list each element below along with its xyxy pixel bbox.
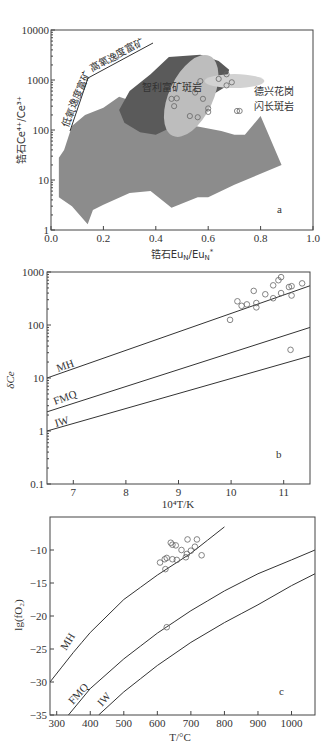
svg-text:600: 600 [149,717,166,729]
data-point [185,537,191,543]
svg-text:0.4: 0.4 [149,232,163,244]
panel-b-ylabel: δCe [4,371,16,388]
data-point [244,302,250,308]
svg-text:1.0: 1.0 [306,232,320,244]
high-fo2-label: 高氧逸度富矿 [87,35,146,74]
dexing-label-1: 德兴花岗 [254,85,294,97]
panel-a-chart: 0.00.20.40.60.81.0110100100010000 低氧逸度富矿… [15,24,320,262]
data-point [262,291,268,297]
svg-text:−25: −25 [30,643,48,655]
fmq-label-b: FMQ [52,387,79,406]
svg-text:−15: −15 [30,577,48,589]
svg-text:9: 9 [176,486,182,498]
svg-text:0.6: 0.6 [201,232,215,244]
panel-b-frame [47,272,310,484]
data-point [299,281,305,287]
svg-text:100: 100 [28,319,45,331]
data-point [199,552,205,558]
panel-a-ylabel: 锆石Ce⁴⁺/Ce³⁺ [15,96,27,164]
panel-c-chart: 3004005006007008009001000−10−15−20−25−30… [12,517,315,743]
svg-text:0.1: 0.1 [30,478,44,490]
data-point [270,283,276,289]
iw-label-b: IW [53,413,70,429]
svg-text:8: 8 [123,486,129,498]
panel-c-ylabel: lg(fO₂) [12,599,25,631]
svg-text:7: 7 [71,486,77,498]
chile-label: 智利富矿斑岩 [142,81,202,93]
svg-text:0.2: 0.2 [97,232,111,244]
svg-text:1: 1 [39,425,45,437]
svg-text:1000: 1000 [27,74,50,86]
mh-label-c: MH [58,631,78,652]
svg-text:−10: −10 [30,544,48,556]
svg-text:500: 500 [116,717,133,729]
iw-label-c: IW [95,689,114,708]
svg-text:−30: −30 [30,676,48,688]
svg-text:400: 400 [82,717,99,729]
svg-text:900: 900 [250,717,267,729]
svg-text:1000: 1000 [22,266,45,278]
svg-text:300: 300 [48,717,65,729]
svg-text:1: 1 [44,224,50,236]
svg-text:700: 700 [183,717,200,729]
svg-text:10: 10 [226,486,238,498]
data-point [179,547,185,553]
svg-text:100: 100 [33,124,50,136]
mh-label-b: MH [55,357,76,374]
svg-text:1000: 1000 [281,717,304,729]
data-point [288,347,294,353]
data-point [192,544,198,550]
panel-b-points [227,274,305,352]
data-point [194,537,200,543]
buffer-line-iw [47,356,310,431]
svg-text:800: 800 [216,717,233,729]
panel-a-label: a [277,203,282,215]
panel-b-buffer-lines [47,286,310,431]
panel-c-buffer-lines [50,527,315,715]
svg-text:−35: −35 [30,709,48,721]
svg-text:10: 10 [38,174,50,186]
panel-b-chart: 78910110.11101001000 MH FMQ IW b δCe 10⁴… [4,266,310,510]
panel-c-label: c [279,685,284,697]
data-point [227,317,233,323]
panel-a-xlabel: 锆石EuN/EuN* [151,248,214,262]
figure: 0.00.20.40.60.81.0110100100010000 低氧逸度富矿… [0,0,332,750]
svg-text:10000: 10000 [22,24,50,36]
data-point [278,290,284,296]
svg-text:11: 11 [278,486,289,498]
panel-c-xlabel: T/°C [169,731,191,743]
buffer-line-fmq [47,327,310,411]
panel-c-points [157,537,204,630]
data-point [251,288,257,294]
data-point [235,299,241,305]
dexing-label-2: 闪长斑岩 [254,100,294,112]
data-point [239,303,245,309]
svg-text:10: 10 [33,372,45,384]
svg-text:0.8: 0.8 [254,232,268,244]
buffer-curve-mh [50,527,224,682]
panel-b-ticks: 78910110.11101001000 [22,266,289,498]
data-point [289,293,295,299]
svg-text:−20: −20 [30,610,48,622]
data-point [173,543,179,549]
panel-b-xlabel: 10⁴T/K [162,498,195,510]
panel-b-label: b [276,448,282,460]
